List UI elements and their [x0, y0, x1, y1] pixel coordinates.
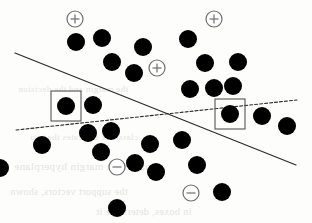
- data-point-dot: [102, 122, 120, 140]
- data-point-dot: [196, 54, 214, 72]
- classification-scatter-figure: the margin and the decisionclassifier se…: [0, 0, 312, 223]
- data-point-dot: [229, 53, 247, 71]
- data-point-dot: [173, 131, 191, 149]
- data-point-dot: [181, 80, 199, 98]
- data-point-dot: [278, 117, 296, 135]
- data-point-dot: [134, 38, 152, 56]
- data-point-dot: [224, 77, 242, 95]
- data-point-dot: [79, 124, 97, 142]
- data-point-dot: [93, 29, 111, 47]
- data-point-dot: [253, 107, 271, 125]
- data-point-dot: [84, 96, 102, 114]
- data-point-markers: [0, 29, 296, 217]
- data-point-dot: [179, 30, 197, 48]
- data-point-dot: [0, 159, 9, 177]
- scatter-plot-canvas: [0, 0, 312, 223]
- data-point-dot: [126, 154, 144, 172]
- data-point-dot: [57, 97, 75, 115]
- data-point-dot: [221, 105, 239, 123]
- data-point-dot: [188, 156, 206, 174]
- data-point-dot: [147, 163, 165, 181]
- data-point-dot: [67, 33, 85, 51]
- data-point-dot: [125, 64, 143, 82]
- data-point-dot: [108, 199, 126, 217]
- data-point-dot: [213, 183, 231, 201]
- data-point-dot: [103, 53, 121, 71]
- data-point-dot: [205, 79, 223, 97]
- data-point-dot: [92, 143, 110, 161]
- data-point-dot: [33, 136, 51, 154]
- data-point-dot: [141, 135, 159, 153]
